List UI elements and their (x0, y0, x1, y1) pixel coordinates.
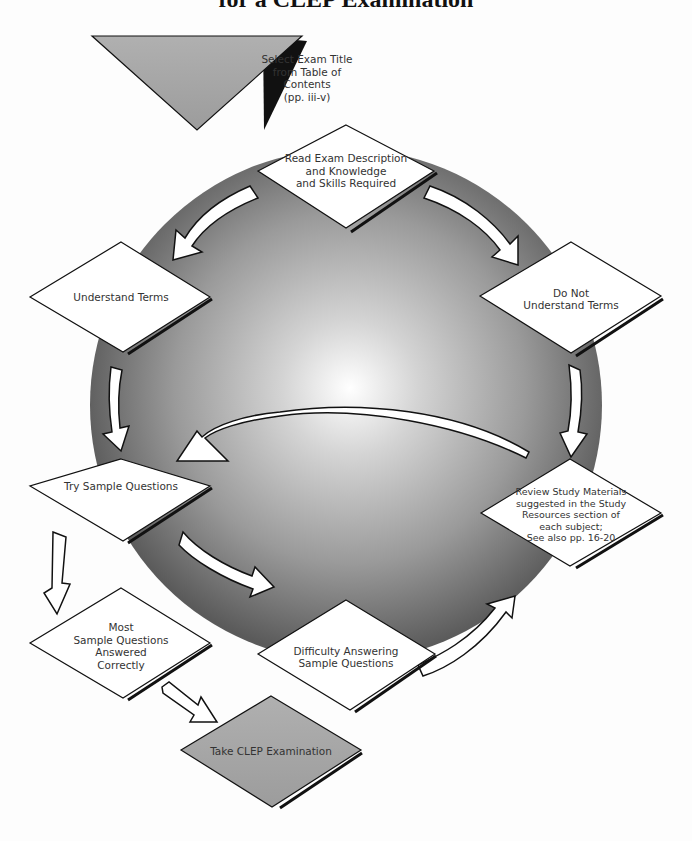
diagram-canvas (0, 0, 692, 841)
arrow-try-to-most (44, 532, 70, 614)
label-read: Read Exam Description and Knowledge and … (270, 150, 422, 192)
flowchart: for a CLEP Examination (0, 0, 692, 841)
label-difficulty: Difficulty Answering Sample Questions (270, 643, 422, 671)
label-take: Take CLEP Examination (195, 742, 347, 760)
label-try: Try Sample Questions (45, 477, 197, 495)
arrow-most-to-take (162, 682, 217, 722)
label-understand: Understand Terms (45, 288, 197, 306)
label-start: Select Exam Title from Table of Contents… (237, 48, 377, 108)
label-not-understand: Do Not Understand Terms (495, 285, 647, 313)
label-most: Most Sample Questions Answered Correctly (45, 620, 197, 672)
label-review: Review Study Materials suggested in the … (495, 482, 647, 548)
